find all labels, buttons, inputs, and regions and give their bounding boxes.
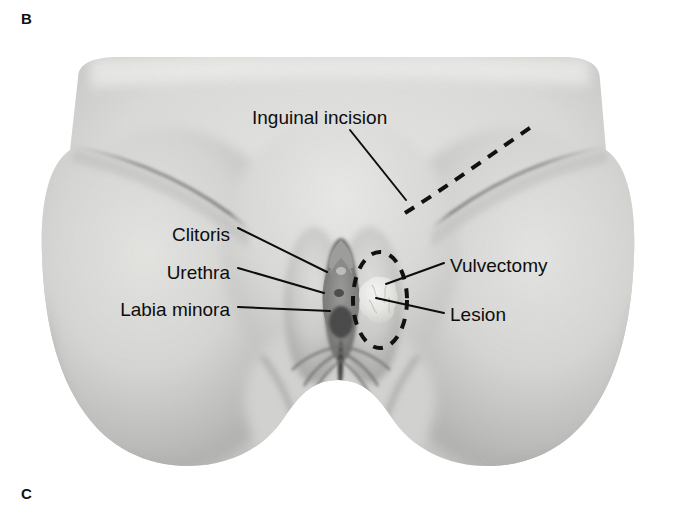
natal-cleft xyxy=(337,392,342,446)
anatomical-illustration xyxy=(0,0,676,514)
figure-panel-b: B C Inguinal incision Clitoris Urethra L… xyxy=(0,0,676,514)
label-inguinal-incision: Inguinal incision xyxy=(252,108,387,127)
label-vulvectomy: Vulvectomy xyxy=(450,256,548,275)
halftone-grain xyxy=(0,0,676,514)
panel-letter-c: C xyxy=(21,486,32,501)
body-illustration xyxy=(0,0,676,514)
label-urethra: Urethra xyxy=(60,263,230,282)
label-labia-minora: Labia minora xyxy=(60,300,230,319)
label-lesion: Lesion xyxy=(450,305,506,324)
label-clitoris: Clitoris xyxy=(60,225,230,244)
panel-letter-b: B xyxy=(21,11,32,26)
